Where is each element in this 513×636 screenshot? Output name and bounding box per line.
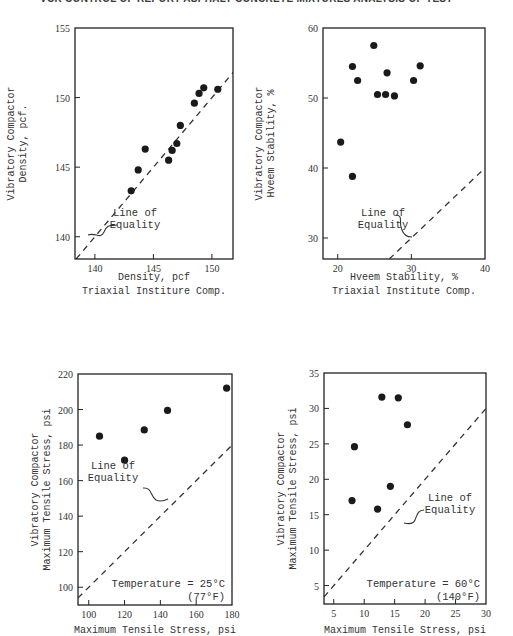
x-axis-label: Maximum Tensile Stress, psi (74, 625, 236, 636)
x-tick-label: 140 (153, 609, 168, 620)
x-tick-label: 100 (81, 609, 96, 620)
equality-label: Line of (91, 460, 135, 472)
y-tick-label: 30 (309, 403, 319, 414)
y-axis-label: Vibratory Compactor (30, 432, 41, 546)
equality-label: Equality (88, 472, 138, 484)
data-point (173, 140, 180, 147)
y-axis-sublabel: Density, pcf. (18, 104, 29, 182)
equality-label: Line of (113, 207, 157, 219)
data-point (128, 187, 135, 194)
data-point (337, 139, 344, 146)
data-point (410, 77, 417, 84)
temperature-annotation-f: (77°F) (187, 591, 225, 603)
data-point (351, 443, 358, 450)
data-point (195, 90, 202, 97)
chart-tensile_60c: 510152025305101520253035Maximum Tensile … (276, 368, 491, 636)
y-tick-label: 200 (58, 405, 73, 416)
y-tick-label: 10 (309, 545, 319, 556)
data-point (214, 86, 221, 93)
chart-tensile_25c: 100120140160180100120140160180200220Maxi… (30, 369, 240, 636)
x-tick-label: 25 (451, 608, 461, 619)
y-tick-label: 5 (314, 581, 319, 592)
data-point (383, 69, 390, 76)
line-of-equality (76, 73, 233, 259)
y-tick-label: 160 (58, 476, 73, 487)
y-tick-label: 145 (55, 162, 70, 173)
data-point (370, 42, 377, 49)
x-axis-label: Maximum Tensile Stress, psi (324, 625, 486, 636)
x-tick-label: 160 (189, 609, 204, 620)
y-axis-sublabel: Maximum Tensile Stress, psi (42, 408, 53, 570)
y-tick-label: 50 (308, 93, 318, 104)
y-axis-label: Vibratory Compactor (276, 431, 287, 545)
brace-pointer-icon (404, 510, 424, 524)
data-point (387, 483, 394, 490)
data-point (349, 173, 356, 180)
data-point (417, 62, 424, 69)
data-point (391, 92, 398, 99)
y-axis-sublabel: Hveem Stability, % (266, 89, 277, 197)
chart-hveem: 20304030405060Hveem Stability, %Triaxial… (254, 23, 490, 297)
y-tick-label: 140 (58, 511, 73, 522)
data-point (382, 91, 389, 98)
y-tick-label: 25 (309, 439, 319, 450)
brace-pointer-icon (143, 488, 168, 501)
y-axis-label: Vibratory Compactor (254, 86, 265, 200)
data-point (164, 407, 171, 414)
x-tick-label: 120 (117, 609, 132, 620)
data-point (200, 84, 207, 91)
y-tick-label: 120 (58, 547, 73, 558)
equality-label: Equality (110, 219, 160, 231)
x-tick-label: 30 (481, 608, 491, 619)
y-axis-sublabel: Maximum Tensile Stress, psi (288, 407, 299, 569)
data-point (141, 426, 148, 433)
data-point (135, 166, 142, 173)
equality-label: Line of (361, 207, 405, 219)
data-point (191, 100, 198, 107)
data-point (169, 147, 176, 154)
x-axis-sublabel: Triaxial Institure Comp. (82, 286, 226, 297)
x-tick-label: 40 (480, 263, 490, 274)
y-tick-label: 30 (308, 233, 318, 244)
plot-frame (78, 374, 232, 605)
y-tick-label: 20 (309, 474, 319, 485)
data-point (177, 122, 184, 129)
x-tick-label: 140 (87, 263, 102, 274)
y-axis-label: Vibratory Compactor (6, 86, 17, 200)
y-tick-label: 180 (58, 440, 73, 451)
data-point (354, 77, 361, 84)
y-tick-label: 60 (308, 23, 318, 34)
data-point (165, 157, 172, 164)
x-axis-label: Density, pcf (118, 272, 190, 283)
y-tick-label: 220 (58, 369, 73, 380)
x-axis-sublabel: Triaxial Institute Comp. (332, 286, 476, 297)
x-tick-label: 20 (333, 263, 343, 274)
y-tick-label: 40 (308, 163, 318, 174)
data-point (404, 421, 411, 428)
data-point (96, 433, 103, 440)
y-tick-label: 150 (55, 93, 70, 104)
temperature-annotation: Temperature = 25°C (112, 578, 225, 590)
data-point (349, 63, 356, 70)
x-tick-label: 150 (204, 263, 219, 274)
x-tick-label: 20 (420, 608, 430, 619)
data-point (378, 393, 385, 400)
temperature-annotation: Temperature = 60°C (367, 578, 480, 590)
x-tick-label: 180 (225, 609, 240, 620)
figure-charts: 140145150140145150155Density, pcfTriaxia… (0, 0, 513, 636)
x-axis-label: Hveem Stability, % (350, 272, 458, 283)
data-point (374, 505, 381, 512)
x-tick-label: 10 (359, 608, 369, 619)
data-point (348, 497, 355, 504)
data-point (142, 145, 149, 152)
y-tick-label: 140 (55, 232, 70, 243)
x-tick-label: 15 (390, 608, 400, 619)
y-tick-label: 100 (58, 582, 73, 593)
data-point (223, 385, 230, 392)
y-tick-label: 155 (55, 23, 70, 34)
y-tick-label: 15 (309, 510, 319, 521)
x-tick-label: 5 (331, 608, 336, 619)
data-point (374, 91, 381, 98)
equality-label: Equality (425, 504, 475, 516)
y-tick-label: 35 (309, 368, 319, 379)
